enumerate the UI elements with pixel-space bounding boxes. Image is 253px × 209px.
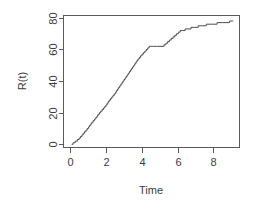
y-tick-label-40: 40 xyxy=(47,75,59,87)
plot-container: 020406080 02468 R(t) Time xyxy=(0,0,253,209)
y-tick-label-80: 80 xyxy=(47,12,59,24)
y-axis-title: R(t) xyxy=(16,72,28,90)
chart-canvas: 020406080 02468 R(t) Time xyxy=(0,0,253,209)
x-tick-label-4: 4 xyxy=(139,156,145,168)
y-tick-label-60: 60 xyxy=(47,43,59,55)
y-tick-label-0: 0 xyxy=(47,141,59,147)
x-tick-label-8: 8 xyxy=(210,156,216,168)
x-axis-title: Time xyxy=(139,184,163,196)
x-tick-label-6: 6 xyxy=(175,156,181,168)
x-tick-label-0: 0 xyxy=(67,156,73,168)
y-tick-label-20: 20 xyxy=(47,107,59,119)
x-tick-label-2: 2 xyxy=(103,156,109,168)
plot-background xyxy=(0,0,253,209)
